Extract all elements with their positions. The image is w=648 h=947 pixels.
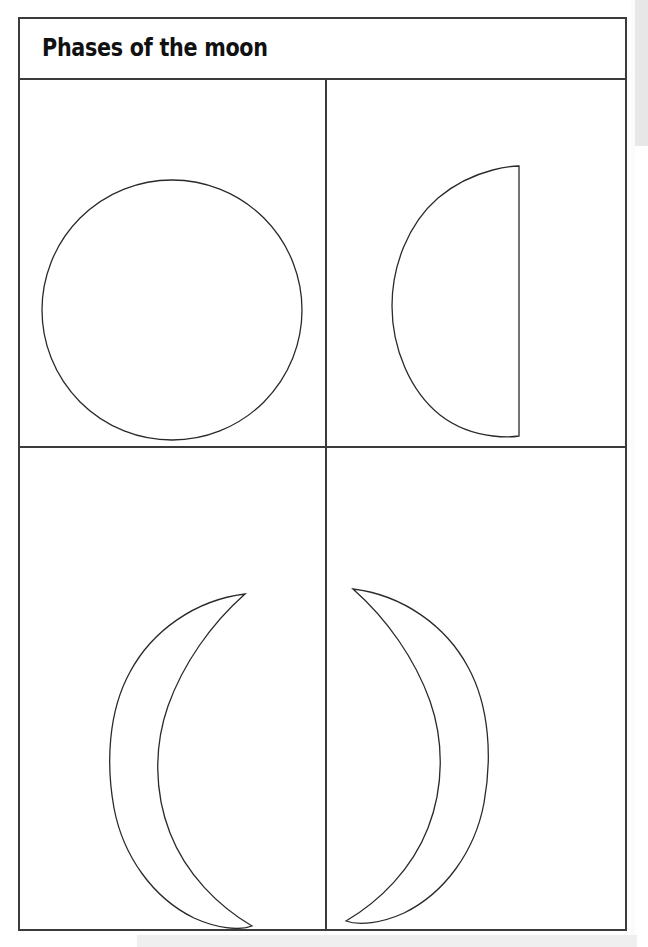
page-canvas: Phases of the moon [0, 0, 648, 947]
grid-horizontal-divider [20, 446, 625, 448]
grid-cell-bottom-right[interactable] [326, 508, 625, 929]
viewport-bottom-edge [137, 935, 637, 947]
crescent-right-outline [346, 589, 488, 923]
full-moon-circle [42, 180, 302, 440]
grid-cell-top-left[interactable] [20, 80, 326, 508]
worksheet-title-bar: Phases of the moon [20, 19, 625, 80]
moon-phase-grid [20, 80, 625, 929]
full-moon-shape [20, 80, 326, 508]
crescent-moon-shape-right [326, 508, 625, 929]
grid-cell-top-right[interactable] [326, 80, 625, 508]
crescent-left-outline [110, 594, 252, 928]
page-title: Phases of the moon [42, 33, 268, 62]
half-moon-outline [392, 166, 519, 437]
grid-cell-bottom-left[interactable] [20, 508, 326, 929]
vertical-scrollbar-thumb[interactable] [635, 0, 648, 146]
half-moon-shape [326, 80, 625, 508]
worksheet-frame: Phases of the moon [18, 17, 627, 931]
grid-vertical-divider [325, 80, 327, 929]
crescent-moon-shape-left [20, 508, 326, 929]
vertical-scrollbar-track[interactable] [635, 0, 648, 947]
